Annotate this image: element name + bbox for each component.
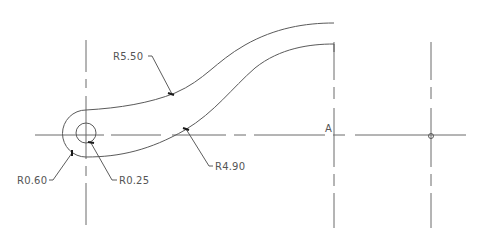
dim-label-r5-50: R5.50 — [113, 51, 143, 62]
dimension-r0-60: R0.60 — [17, 150, 72, 186]
boss-arc — [62, 110, 86, 157]
dimension-r0-25: R0.25 — [88, 142, 149, 186]
point-a-label: A — [325, 123, 332, 134]
dim-label-r4-90: R4.90 — [215, 161, 245, 172]
upper-profile-curve — [86, 23, 334, 110]
dim-label-r0-60: R0.60 — [17, 175, 47, 186]
cad-drawing-canvas: R5.50 R4.90 R0.60 R0.25 A — [0, 0, 480, 246]
dim-label-r0-25: R0.25 — [119, 175, 149, 186]
dimension-r5-50: R5.50 — [113, 51, 174, 95]
